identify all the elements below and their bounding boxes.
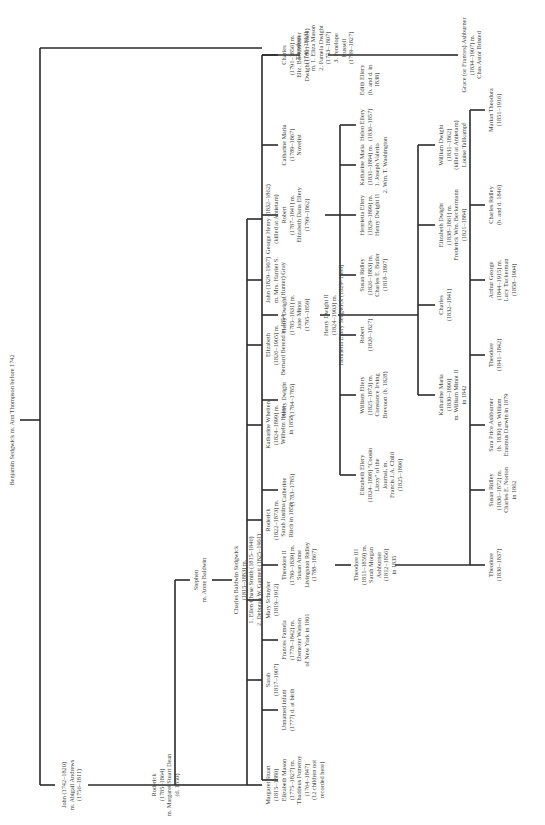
line: (1791–1856) m. (288, 29, 296, 82)
line: m. William Minot II (452, 369, 460, 420)
line: Stephen (192, 558, 200, 602)
line: (1778–1842) m. (288, 613, 296, 666)
line: (1788–1867) (310, 542, 318, 588)
line: Constance Irving (373, 371, 381, 418)
line: Theodore II (280, 542, 288, 588)
line: (1834–1907) m. (468, 17, 476, 92)
line: Ebenezer Watson (295, 613, 303, 666)
line: Roderick (264, 500, 272, 541)
line: (1851–1916) (495, 88, 503, 132)
line: Frederick Wm. Beckermann (452, 189, 460, 260)
person-catherine: Catherine (1783–1785) (280, 474, 295, 507)
person-frances-pamela: Frances Pamela (1778–1842) m. Ebenezer W… (280, 613, 310, 666)
line: (1831–1884) m. (366, 137, 374, 193)
line: (1826–1905) m. (272, 315, 280, 376)
line: Livingston Ridley (303, 542, 311, 588)
line: (killed at Antietam) (272, 184, 280, 254)
line: (1753–1807) (324, 25, 332, 71)
line: Unnamed infant (280, 689, 288, 732)
line: Henry Dwight II (322, 265, 330, 366)
person-grace-ashburner: Grace (or Frances) Ashburner (1834–1907)… (460, 17, 483, 92)
person-charles: Charles (1791–1856) m. Eliz. Buckminster… (280, 29, 310, 82)
line: (1836–1872) m. (495, 467, 503, 513)
line: Catherine (280, 474, 288, 507)
line: (1775–1827) m. (288, 756, 296, 805)
person-roderick: Roderick (1785–1864) m. Margaret Stuart … (150, 754, 180, 816)
person-george-henry: George Henry (1832–1862) (killed at Anti… (264, 184, 279, 254)
line: 2. Deborah W. Gannett (1825–1901) (255, 534, 263, 626)
line: (1785–1831) m. (288, 295, 296, 336)
person-henry-dwight: Henry Dwight (1785–1831) m. Jane Minot (… (280, 295, 310, 336)
person-theodore-ii: Theodore II (1780–1839) m. Susan Anne Li… (280, 542, 318, 588)
person-elizabeth-mason: Elizabeth Mason (1775–1827) m. Thaddeus … (280, 756, 326, 805)
line: in 1862 (510, 467, 518, 513)
line: (killed at Antietam) (452, 120, 460, 169)
person-margaret-stuart: Margaret Stuart (1815–1880) (264, 765, 279, 805)
line: Theodore (487, 339, 495, 372)
person-sara-price-ashburner: Sara Price Ashburner (b. 1839) m. Willia… (487, 394, 510, 457)
person-marian-theodora: Marian Theodora (1851–1916) (487, 88, 502, 132)
line: Thaddeus Pomeroy (295, 756, 303, 805)
person-katharine-maria-hd: Katharine Maria (1830–1890) m. William M… (437, 369, 467, 420)
family-tree-canvas: Benjamin Sedgwick m. Ann Thompson before… (0, 0, 545, 825)
line: of New York in 1801 (303, 613, 311, 666)
line: Charles Baldwin Sedgwick (232, 534, 240, 626)
person-mary-schuyler: Mary Schuyler (1819–1912) (264, 581, 279, 619)
line: (1836–1857) (366, 109, 374, 142)
person-arthur-george: Arthur George (1844–1915) m. Lucy Tucker… (487, 259, 517, 302)
line: (b. and d. in (366, 65, 374, 96)
person-unnamed-infant: Unnamed infant (1777) d. at birth (280, 689, 295, 732)
person-susan-ridley-norton: Susan Ridley (1836–1872) m. Charles E. N… (487, 467, 517, 513)
line: Arthur George (487, 259, 495, 302)
line: (1841–1842) (495, 339, 503, 372)
line: Henry Dwight II (373, 194, 381, 236)
person-charles-ridley: Charles Ridley (b. and d. 1846) (487, 185, 502, 225)
line: Robert (358, 319, 366, 352)
line: (1815–1880) (272, 765, 280, 805)
line: (1769–1827) (347, 25, 355, 71)
line: Mary Schuyler (264, 581, 272, 619)
person-stephen: Stephen m. Anne Baldwin (192, 558, 207, 602)
line: Henry Dwight (280, 295, 288, 336)
line: Catharine Maria (280, 124, 288, 165)
line: (1819–1912) (272, 581, 280, 619)
line: Journal, m. (381, 448, 389, 503)
person-elizabeth-ellery: Elizabeth Ellery (1824–1898) "Cousin Liz… (358, 448, 404, 503)
line: Elizabeth (264, 315, 272, 376)
line: (1826–1827) (366, 319, 374, 352)
line: (1818–1897) (381, 253, 389, 297)
person-william-dwight: William Dwight (1831–1862) (killed at An… (437, 120, 467, 169)
line: (1817–1907) (272, 664, 280, 697)
line: (1756–1811) (75, 760, 83, 811)
person-catharine-maria: Catharine Maria (1789–1867) Novelist (280, 124, 303, 165)
line: Sarah (264, 664, 272, 697)
line: (1789–1867) (288, 124, 296, 165)
line: 3. Penelope (332, 25, 340, 71)
line: William Ellery (358, 371, 366, 418)
line: Brevoort (b. 1828) (381, 371, 389, 418)
line: Edith Ellery (358, 65, 366, 96)
line: Dwight (1801–1864) (303, 29, 311, 82)
person-theodore-1836: Theodore (1836–1837) (487, 549, 502, 582)
line: Katharine Maria (437, 369, 445, 420)
line: (1824–1899) m. (272, 401, 280, 449)
line: Sara Price Ashburner (487, 394, 495, 457)
line: (1822–1873) m. (272, 500, 280, 541)
person-john: John (1742–1820) m. Abigail Andrews (175… (60, 760, 83, 811)
line: (1825–1873) m. (366, 371, 374, 418)
line: Helen Ellery (358, 109, 366, 142)
line: (1824–1898) "Cousin (366, 448, 374, 503)
line: Eliz. Buckminster (295, 29, 303, 82)
line: (1780–1839) m. (288, 542, 296, 588)
line: m. Margaret Stuart Dean (165, 754, 173, 816)
root-couple-label: Benjamin Sedgwick m. Ann Thompson before… (8, 354, 16, 485)
line: (1784–1785) (288, 382, 296, 418)
person-robert: Robert (1787–1841) m. Elizabeth Dana Ell… (280, 187, 310, 243)
person-charles-baldwin-sedgwick: Charles Baldwin Sedgwick (1815–1883) m. … (232, 534, 262, 626)
line: in 1842 (460, 369, 468, 420)
person-henry-dwight-ii: Henry Dwight II (1824–1903) m. Henrietta… (322, 265, 345, 366)
person-theodore-1841: Theodore (1841–1842) (487, 339, 502, 372)
line: (1824–1903) m. (330, 265, 338, 366)
person-charles-hd: Charles (1832–1841) (437, 289, 452, 322)
line: (1829–1899) m. (366, 194, 374, 236)
